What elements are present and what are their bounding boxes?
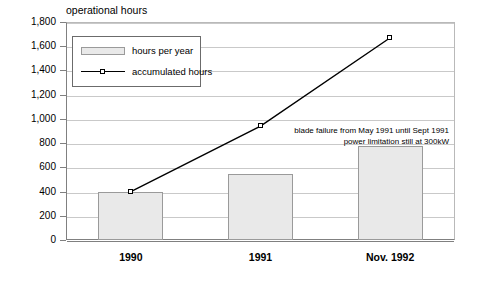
x-axis-tick-label: 1991 [196, 252, 326, 263]
legend-label-hours-per-year: hours per year [132, 46, 193, 56]
annotation-line-1: power limitation still at 300kW [294, 137, 449, 148]
chart-annotation: blade failure from May 1991 until Sept 1… [294, 126, 449, 147]
x-axis-tick-label: Nov. 1992 [325, 252, 455, 263]
line-marker-nov1992 [387, 35, 392, 40]
chart-container: operational hours 02004006008001,0001,20… [0, 0, 480, 285]
legend-label-accumulated-hours: accumulated hours [132, 67, 212, 77]
legend-swatch-line-icon [81, 68, 125, 76]
line-marker-1990 [128, 189, 133, 194]
legend-swatch-bar-icon [81, 47, 125, 55]
legend-item-accumulated-hours: accumulated hours [81, 66, 212, 78]
line-marker-1991 [258, 123, 263, 128]
x-axis-tick-label: 1990 [66, 252, 196, 263]
annotation-line-0: blade failure from May 1991 until Sept 1… [294, 126, 449, 137]
chart-legend: hours per year accumulated hours [72, 36, 201, 87]
legend-item-hours-per-year: hours per year [81, 45, 193, 57]
